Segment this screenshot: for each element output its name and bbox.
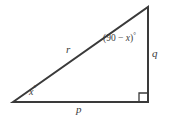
angle-label-complement: (90 − x)° — [103, 32, 136, 44]
complement-value: 90 — [106, 33, 116, 43]
angle-label-x: x° — [29, 86, 36, 97]
complement-minus-sign: − — [116, 33, 126, 43]
side-label-hypotenuse: r — [66, 44, 70, 55]
triangle-graphic — [0, 0, 172, 119]
side-label-base: p — [76, 104, 82, 115]
side-label-vertical: q — [152, 48, 158, 59]
degree-symbol-icon: ° — [133, 31, 136, 38]
degree-symbol-icon: ° — [33, 85, 36, 93]
right-triangle-diagram: r p q x° (90 − x)° — [0, 0, 172, 119]
right-angle-square-icon — [139, 93, 148, 102]
